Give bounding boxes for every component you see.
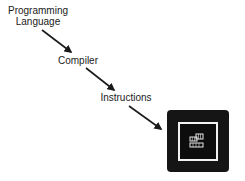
cpu-chip-icon <box>167 110 229 172</box>
arrow-compiler-to-instructions <box>86 68 114 90</box>
arrow-instructions-to-chip <box>129 106 161 129</box>
chip-frame <box>178 122 218 161</box>
arrow-programming-to-compiler <box>42 30 71 52</box>
chip-circuit-icon <box>189 133 209 149</box>
